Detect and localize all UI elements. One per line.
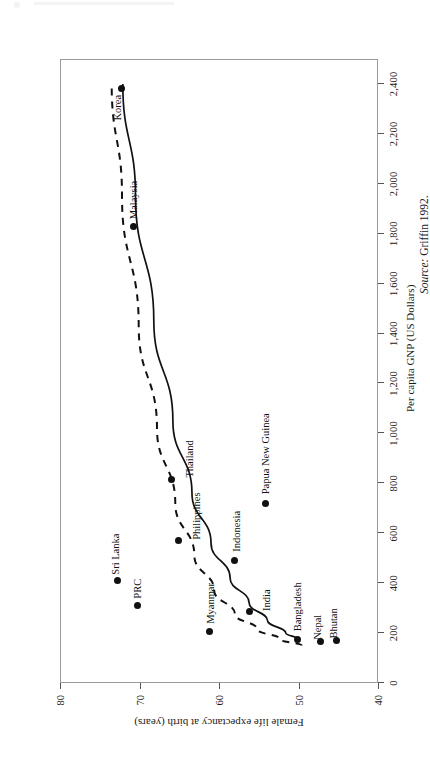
y-axis-tick-label: 40 [373,695,384,706]
data-point-label: Philippines [191,492,202,539]
x-axis-tick-label: 200 [388,625,399,641]
x-axis-tick [378,432,384,433]
x-axis-tick-label: 0 [388,680,399,685]
data-point [134,602,141,609]
x-axis-tick-label: 800 [388,475,399,491]
x-axis-tick-label: 600 [388,525,399,541]
x-axis-tick [378,233,384,234]
y-axis-tick-label: 70 [134,695,145,706]
x-axis-tick [378,632,384,633]
data-point-label: Malaysia [128,181,139,220]
y-axis-tick [60,683,61,689]
data-point-label: Papua New Guinea [260,413,271,494]
source-note-text: Griffin 1992. [418,195,430,258]
data-point-label: Bangladesh [292,582,303,631]
x-axis-tick [378,133,384,134]
data-point-label: Nepal [312,615,323,640]
x-axis-tick [378,482,384,483]
x-axis-tick-label: 2,000 [388,172,399,197]
data-point [114,577,121,584]
x-axis-tick [378,532,384,533]
y-axis-tick-label: 80 [55,695,66,706]
source-note-prefix: Source: [418,259,430,294]
fitted-curve-dashed [112,84,302,646]
x-axis-tick [378,333,384,334]
data-point-label: India [261,589,272,611]
data-point-label: Thailand [184,440,195,477]
y-axis-tick-label: 60 [214,695,225,706]
y-axis-title: Female life expectancy at birth (years) [134,717,304,729]
fitted-curve-solid [123,84,299,639]
source-note: Source: Griffin 1992. [418,195,430,294]
x-axis-tick [378,382,384,383]
x-axis-tick [378,283,384,284]
x-axis-tick-label: 2,200 [388,122,399,147]
data-point [262,500,269,507]
x-axis-tick-label: 1,800 [388,221,399,246]
y-axis-tick [140,683,141,689]
x-axis-tick [378,83,384,84]
x-axis-tick-label: 1,600 [388,271,399,296]
y-axis-tick [378,683,379,689]
x-axis-tick-label: 400 [388,575,399,591]
x-axis-tick [378,183,384,184]
data-point-label: Bhutan [328,608,339,638]
x-axis-tick-label: 1,200 [388,371,399,396]
x-axis-tick-label: 2,400 [388,72,399,97]
x-axis-tick [378,582,384,583]
y-axis-tick [219,683,220,689]
data-point [130,223,137,230]
data-point-label: Korea [112,95,123,121]
data-point-label: Indonesia [231,511,242,552]
y-axis-tick [299,683,300,689]
x-axis-tick-label: 1,400 [388,321,399,346]
data-point-label: Myanmar [205,583,216,624]
data-point-label: Sri Lanka [110,534,121,575]
data-point-label: PRC [132,579,143,599]
x-axis-title: Per capita GNP (US Dollars) [404,285,416,412]
x-axis-tick-label: 1,000 [388,421,399,446]
data-point [294,636,301,643]
y-axis-tick-label: 50 [293,695,304,706]
data-point [168,476,175,483]
